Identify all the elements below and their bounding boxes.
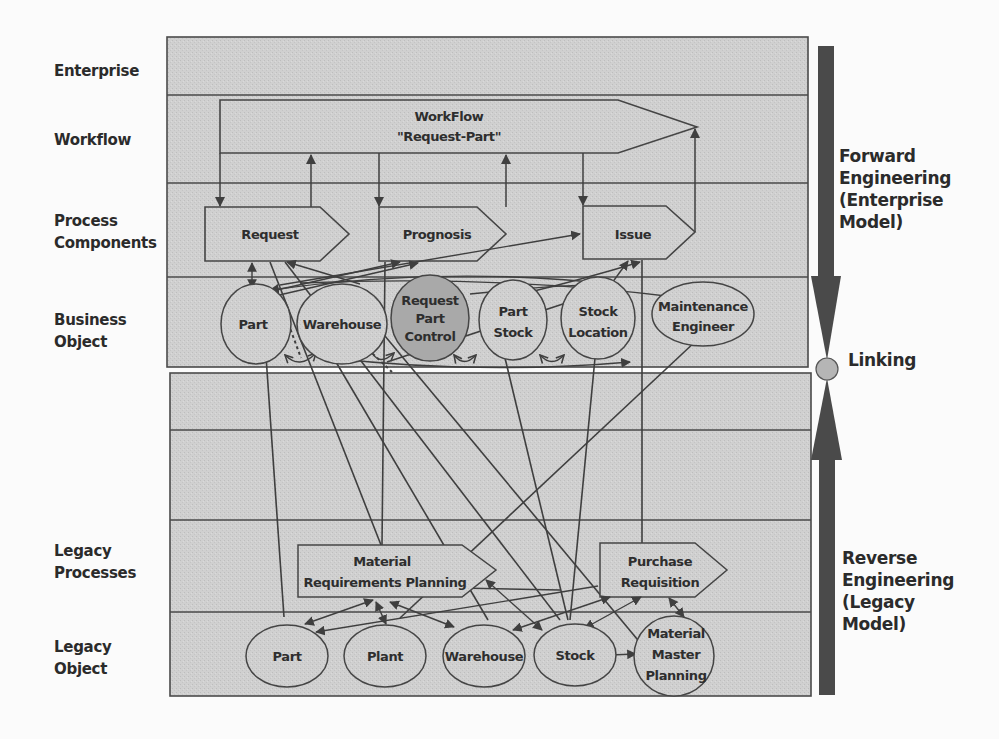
linking-label: Linking [848,349,916,371]
request-part-control-line2: Part [416,311,445,326]
side-label-line: (Enterprise [839,189,951,211]
legacy-object-material-master-planning[interactable]: Material Master Planning [634,616,714,696]
workflow-request-part[interactable]: WorkFlow "Request-Part" [220,100,697,153]
part-stock-line1: Part [499,304,528,319]
side-label-line: Reverse [842,547,954,569]
linking-dot-icon [816,358,838,380]
side-label-line: (Legacy [842,591,954,613]
purchase-requisition-line2: Requisition [621,575,700,590]
mmp-line2: Master [652,647,701,662]
legacy-object-warehouse[interactable]: Warehouse [443,625,525,687]
mmp-line3: Planning [645,668,706,683]
forward-bar [818,46,834,286]
maintenance-engineer-line1: Maintenance [658,299,748,314]
mrp-line2: Requirements Planning [303,575,466,590]
side-label-line: Forward [839,145,951,167]
side-label-line: Engineering [842,569,954,591]
stock-location-line1: Stock [579,304,619,319]
request-part-control-line1: Request [401,293,459,308]
business-object-stock-location[interactable]: Stock Location [561,277,635,359]
request-part-control-line3: Control [405,329,456,344]
request-label: Request [241,227,299,242]
legacy-part-label: Part [273,649,302,664]
business-object-part[interactable]: Part [221,284,291,364]
legacy-process-mrp[interactable]: Material Requirements Planning [298,545,496,597]
maintenance-engineer-line2: Engineer [672,319,735,334]
business-object-warehouse[interactable]: Warehouse [297,284,387,364]
legacy-object-stock[interactable]: Stock [534,624,616,686]
issue-label: Issue [615,227,652,242]
part-stock-line2: Stock [494,325,534,340]
reverse-bar [819,455,835,695]
side-label-line: Model) [839,211,951,233]
warehouse-label: Warehouse [303,317,382,332]
business-object-request-part-control[interactable]: Request Part Control [391,275,469,361]
legacy-warehouse-label: Warehouse [445,649,524,664]
legacy-plant-label: Plant [367,649,403,664]
reverse-engineering-label: Reverse Engineering (Legacy Model) [842,547,954,635]
prognosis-label: Prognosis [403,227,472,242]
part-label: Part [239,317,268,332]
side-label-line: Model) [842,613,954,635]
workflow-subtitle: "Request-Part" [397,129,501,144]
process-component-request[interactable]: Request [205,207,349,261]
legacy-object-part[interactable]: Part [246,625,328,687]
purchase-requisition-line1: Purchase [628,554,693,569]
mrp-line1: Material [353,554,411,569]
side-label-line: Linking [848,349,916,371]
stock-location-line2: Location [568,325,627,340]
legacy-stock-label: Stock [556,648,596,663]
business-object-maintenance-engineer[interactable]: Maintenance Engineer [652,282,754,346]
legacy-object-plant[interactable]: Plant [344,625,426,687]
forward-arrow-icon [811,276,841,360]
engineering-direction-bar [811,46,842,695]
side-label-line: Engineering [839,167,951,189]
mmp-line1: Material [647,626,705,641]
workflow-title: WorkFlow [415,109,484,124]
business-object-part-stock[interactable]: Part Stock [479,280,547,360]
forward-engineering-label: Forward Engineering (Enterprise Model) [839,145,951,233]
reverse-arrow-icon [811,378,842,460]
